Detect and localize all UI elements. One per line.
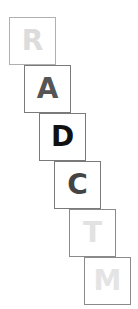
- tile-c: C: [54, 161, 101, 209]
- tile-d: D: [39, 113, 86, 161]
- tile-letter: A: [37, 75, 59, 103]
- tile-m: M: [84, 257, 131, 305]
- tile-letter: M: [94, 267, 122, 295]
- tile-r: R: [9, 17, 56, 65]
- tile-a: A: [24, 65, 71, 113]
- tile-t: T: [69, 209, 116, 257]
- tile-letter: C: [67, 171, 88, 199]
- tile-letter: T: [83, 219, 102, 247]
- tile-letter: D: [51, 123, 74, 151]
- tile-letter: R: [22, 27, 44, 55]
